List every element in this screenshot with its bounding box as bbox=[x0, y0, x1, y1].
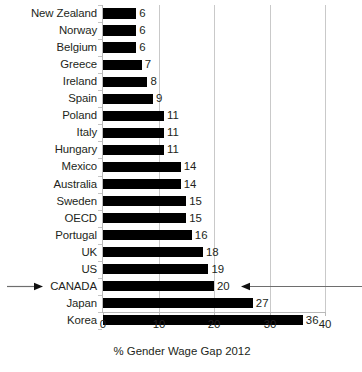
value-label-spain: 9 bbox=[156, 90, 162, 107]
value-label-greece: 7 bbox=[145, 56, 151, 73]
bar-row: OECD15 bbox=[0, 210, 362, 227]
value-label-canada: 20 bbox=[217, 278, 230, 295]
category-label-hungary: Hungary bbox=[0, 141, 97, 158]
bar-japan bbox=[103, 298, 253, 308]
right-arrow-annotation-icon bbox=[240, 281, 362, 292]
bar-mexico bbox=[103, 162, 181, 172]
bar-row: UK18 bbox=[0, 244, 362, 261]
bar-row: US19 bbox=[0, 261, 362, 278]
bar-spain bbox=[103, 94, 153, 104]
bar-italy bbox=[103, 128, 164, 138]
bar-row: Japan27 bbox=[0, 295, 362, 312]
bar-norway bbox=[103, 25, 136, 35]
bar-row: Belgium6 bbox=[0, 39, 362, 56]
category-label-sweden: Sweden bbox=[0, 193, 97, 210]
value-label-japan: 27 bbox=[256, 295, 269, 312]
value-label-portugal: 16 bbox=[195, 227, 208, 244]
value-label-uk: 18 bbox=[206, 244, 219, 261]
bar-row: Sweden15 bbox=[0, 193, 362, 210]
x-tick-label-0: 0 bbox=[83, 318, 123, 330]
category-label-oecd: OECD bbox=[0, 210, 97, 227]
category-label-italy: Italy bbox=[0, 124, 97, 141]
value-label-belgium: 6 bbox=[139, 39, 145, 56]
category-label-spain: Spain bbox=[0, 90, 97, 107]
category-label-new-zealand: New Zealand bbox=[0, 5, 97, 22]
bar-row: Mexico14 bbox=[0, 158, 362, 175]
category-label-poland: Poland bbox=[0, 107, 97, 124]
bar-row: Poland11 bbox=[0, 107, 362, 124]
bar-row: New Zealand6 bbox=[0, 5, 362, 22]
left-arrow-annotation-icon bbox=[6, 281, 44, 292]
category-label-norway: Norway bbox=[0, 22, 97, 39]
bar-row: Greece7 bbox=[0, 56, 362, 73]
bar-sweden bbox=[103, 196, 186, 206]
category-label-belgium: Belgium bbox=[0, 39, 97, 56]
x-tick-label-40: 40 bbox=[305, 318, 345, 330]
x-tick-label-10: 10 bbox=[139, 318, 179, 330]
value-label-hungary: 11 bbox=[167, 141, 179, 158]
x-tick-label-30: 30 bbox=[250, 318, 290, 330]
value-label-poland: 11 bbox=[167, 107, 179, 124]
bar-row: Ireland8 bbox=[0, 73, 362, 90]
bar-row: Hungary11 bbox=[0, 141, 362, 158]
category-label-australia: Australia bbox=[0, 176, 97, 193]
value-label-oecd: 15 bbox=[189, 210, 202, 227]
value-label-norway: 6 bbox=[139, 22, 145, 39]
bar-australia bbox=[103, 179, 181, 189]
value-label-ireland: 8 bbox=[150, 73, 156, 90]
category-label-mexico: Mexico bbox=[0, 158, 97, 175]
bar-ireland bbox=[103, 77, 147, 87]
bar-belgium bbox=[103, 42, 136, 52]
bar-new-zealand bbox=[103, 8, 136, 18]
value-label-australia: 14 bbox=[184, 176, 197, 193]
bar-hungary bbox=[103, 145, 164, 155]
bar-canada bbox=[103, 281, 214, 291]
x-tick-label-20: 20 bbox=[194, 318, 234, 330]
value-label-italy: 11 bbox=[167, 124, 179, 141]
bar-uk bbox=[103, 247, 203, 257]
category-label-japan: Japan bbox=[0, 295, 97, 312]
category-label-uk: UK bbox=[0, 244, 97, 261]
bar-greece bbox=[103, 60, 142, 70]
value-label-sweden: 15 bbox=[189, 193, 202, 210]
bar-us bbox=[103, 264, 208, 274]
category-label-us: US bbox=[0, 261, 97, 278]
x-axis-title: % Gender Wage Gap 2012 bbox=[52, 345, 312, 357]
bar-row: Spain9 bbox=[0, 90, 362, 107]
bar-row: Norway6 bbox=[0, 22, 362, 39]
bar-row: Italy11 bbox=[0, 124, 362, 141]
value-label-us: 19 bbox=[211, 261, 224, 278]
gender-wage-gap-bar-chart: New Zealand6Norway6Belgium6Greece7Irelan… bbox=[0, 0, 362, 372]
category-label-portugal: Portugal bbox=[0, 227, 97, 244]
value-label-new-zealand: 6 bbox=[139, 5, 145, 22]
bar-row: Australia14 bbox=[0, 176, 362, 193]
category-label-greece: Greece bbox=[0, 56, 97, 73]
bar-row: Portugal16 bbox=[0, 227, 362, 244]
bar-poland bbox=[103, 111, 164, 121]
bar-oecd bbox=[103, 213, 186, 223]
value-label-mexico: 14 bbox=[184, 158, 197, 175]
category-label-ireland: Ireland bbox=[0, 73, 97, 90]
bar-portugal bbox=[103, 230, 192, 240]
